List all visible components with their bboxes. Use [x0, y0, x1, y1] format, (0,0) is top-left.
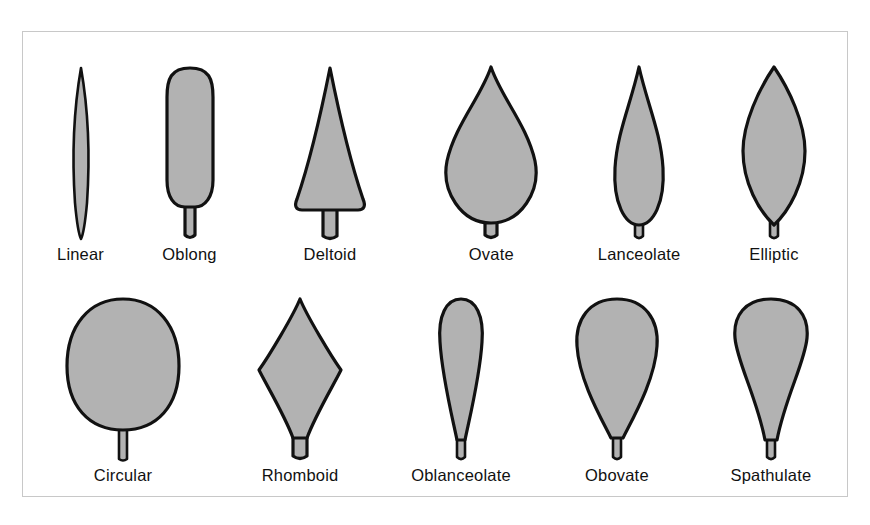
leaf-label: Oblanceolate [411, 466, 511, 485]
leaf-item-rhomboid: Rhomboid [245, 294, 355, 485]
leaf-item-ovate: Ovate [435, 63, 547, 264]
leaf-label: Rhomboid [262, 466, 339, 485]
leaf-label: Obovate [585, 466, 649, 485]
lanceolate-leaf-icon [603, 63, 675, 243]
leaf-label: Oblong [162, 245, 216, 264]
leaf-shape-figure: Linear Oblong Deltoid [0, 0, 870, 525]
leaf-item-spathulate: Spathulate [723, 294, 819, 485]
circular-leaf-icon [57, 294, 189, 464]
leaf-label: Lanceolate [598, 245, 681, 264]
leaf-item-deltoid: Deltoid [275, 63, 385, 264]
leaf-item-circular: Circular [57, 294, 189, 485]
ovate-leaf-icon [435, 63, 547, 243]
figure-frame: Linear Oblong Deltoid [22, 31, 848, 497]
leaf-item-oblanceolate: Oblanceolate [411, 294, 511, 485]
leaf-label: Spathulate [731, 466, 812, 485]
leaf-label: Ovate [469, 245, 514, 264]
leaf-item-linear: Linear [57, 63, 104, 264]
obovate-leaf-icon [567, 294, 667, 464]
top-row: Linear Oblong Deltoid [57, 46, 817, 264]
leaf-label: Linear [57, 245, 104, 264]
spathulate-leaf-icon [723, 294, 819, 464]
linear-leaf-icon [58, 63, 104, 243]
leaf-item-elliptic: Elliptic [731, 63, 817, 264]
bottom-row: Circular Rhomboid Oblanceolate [57, 280, 819, 485]
leaf-label: Elliptic [749, 245, 798, 264]
rhomboid-leaf-icon [245, 294, 355, 464]
leaf-item-obovate: Obovate [567, 294, 667, 485]
deltoid-leaf-icon [275, 63, 385, 243]
leaf-label: Deltoid [304, 245, 357, 264]
oblong-leaf-icon [155, 63, 225, 243]
leaf-item-oblong: Oblong [155, 63, 225, 264]
oblanceolate-leaf-icon [428, 294, 494, 464]
elliptic-leaf-icon [731, 63, 817, 243]
leaf-item-lanceolate: Lanceolate [598, 63, 681, 264]
leaf-label: Circular [94, 466, 152, 485]
